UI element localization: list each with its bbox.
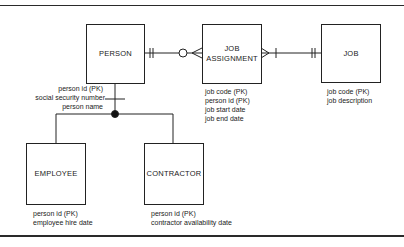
crows-foot-icon (192, 48, 202, 53)
person-to-job-assignment-relationship (144, 48, 202, 58)
subtype-dot-icon (112, 111, 119, 118)
entity-contractor-attributes: person id (PK) contractor availability d… (151, 209, 232, 227)
attribute: job description (327, 96, 372, 105)
attribute: job start date (205, 105, 250, 114)
entity-job-attributes: job code (PK) job description (327, 87, 372, 105)
attribute: person id (PK) (35, 84, 103, 93)
entity-job-label: JOB (343, 49, 358, 59)
attribute: job code (PK) (205, 87, 250, 96)
entity-job-assignment-label-line2: ASSIGNMENT (206, 54, 258, 64)
entity-job[interactable]: JOB (321, 24, 381, 83)
entity-job-assignment-attributes: job code (PK) person id (PK) job start d… (205, 87, 250, 123)
attribute: person name (35, 102, 103, 111)
zero-circle-icon (179, 49, 187, 57)
entity-person-attributes: person id (PK) social security number pe… (35, 84, 103, 111)
entity-job-assignment[interactable]: JOB ASSIGNMENT (202, 24, 262, 84)
entity-job-assignment-label-line1: JOB (224, 44, 239, 54)
attribute: job code (PK) (327, 87, 372, 96)
entity-employee[interactable]: EMPLOYEE (26, 143, 86, 205)
attribute: person id (PK) (151, 209, 232, 218)
entity-employee-attributes: person id (PK) employee hire date (33, 209, 93, 227)
attribute: employee hire date (33, 218, 93, 227)
attribute: person id (PK) (205, 96, 250, 105)
attribute: job end date (205, 114, 250, 123)
entity-contractor-label: CONTRACTOR (147, 169, 202, 179)
crows-foot-icon (261, 48, 269, 53)
entity-contractor[interactable]: CONTRACTOR (144, 143, 204, 205)
attribute: social security number (35, 93, 105, 102)
entity-employee-label: EMPLOYEE (35, 169, 78, 179)
attribute: person id (PK) (33, 209, 93, 218)
entity-person-label: PERSON (99, 49, 132, 59)
job-assignment-to-job-relationship (261, 48, 321, 58)
attribute: contractor availability date (151, 218, 232, 227)
entity-person[interactable]: PERSON (86, 24, 145, 84)
